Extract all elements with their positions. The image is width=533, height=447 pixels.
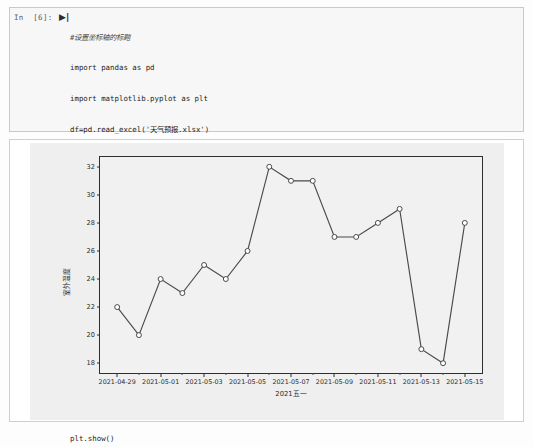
x-axis-tick-mark-minor (356, 373, 357, 375)
data-point-marker (158, 277, 163, 282)
data-point-marker (441, 361, 446, 366)
run-cell-icon[interactable]: ▶| (59, 12, 69, 23)
code-line: #设置坐标轴的标题 (70, 33, 520, 43)
code-line: df=pd.read_excel('天气预报.xlsx') (70, 125, 520, 135)
data-point-marker (202, 263, 207, 268)
cell-output-area: 18202224262830322021-04-292021-05-012021… (9, 139, 524, 422)
data-point-marker (115, 305, 120, 310)
y-axis-tick-mark (97, 335, 101, 336)
x-axis-tick-mark (334, 373, 335, 377)
data-point-marker (289, 178, 294, 183)
x-axis-tick-label: 2021-04-29 (99, 378, 136, 386)
data-point-marker (245, 248, 250, 253)
x-axis-tick-mark (377, 373, 378, 377)
plot-axes: 18202224262830322021-04-292021-05-012021… (99, 156, 483, 374)
data-point-marker (354, 234, 359, 239)
data-point-marker (136, 333, 141, 338)
x-axis-tick-mark (117, 373, 118, 377)
x-axis-tick-label: 2021-05-05 (229, 378, 266, 386)
code-line: import matplotlib.pyplot as plt (70, 94, 520, 104)
x-axis-tick-label: 2021-05-15 (446, 378, 483, 386)
cell-prompt-label: In [6]: (14, 13, 60, 22)
y-axis-tick-mark (97, 194, 101, 195)
x-axis-tick-mark (247, 373, 248, 377)
x-axis-tick-mark (464, 373, 465, 377)
data-point-marker (397, 206, 402, 211)
x-axis-tick-label: 2021-05-13 (403, 378, 440, 386)
x-axis-label: 2021五一 (275, 388, 306, 398)
data-point-marker (180, 291, 185, 296)
notebook-code-cell[interactable]: In [6]: ▶| #设置坐标轴的标题 import pandas as pd… (9, 7, 524, 132)
y-axis-tick-mark (97, 166, 101, 167)
x-axis-tick-label: 2021-05-03 (186, 378, 223, 386)
series-line (117, 167, 465, 363)
data-point-marker (375, 220, 380, 225)
y-axis-label: 室外温度 (61, 268, 71, 296)
y-axis-tick-mark (97, 222, 101, 223)
x-axis-tick-label: 2021-05-01 (142, 378, 179, 386)
y-axis-tick-mark (97, 307, 101, 308)
data-point-marker (419, 347, 424, 352)
line-series (100, 157, 482, 373)
x-axis-tick-mark-minor (399, 373, 400, 375)
x-axis-tick-label: 2021-05-11 (359, 378, 396, 386)
x-axis-tick-label: 2021-05-09 (316, 378, 353, 386)
x-axis-tick-mark (291, 373, 292, 377)
x-axis-tick-mark-minor (182, 373, 183, 375)
matplotlib-figure: 18202224262830322021-04-292021-05-012021… (30, 143, 504, 420)
x-axis-tick-mark-minor (269, 373, 270, 375)
y-axis-tick-mark (97, 363, 101, 364)
data-point-marker (310, 178, 315, 183)
data-point-marker (462, 220, 467, 225)
code-line: import pandas as pd (70, 63, 520, 73)
data-point-marker (267, 164, 272, 169)
x-axis-tick-mark (160, 373, 161, 377)
y-axis-tick-mark (97, 279, 101, 280)
x-axis-tick-mark-minor (225, 373, 226, 375)
y-axis-tick-mark (97, 250, 101, 251)
x-axis-tick-mark (421, 373, 422, 377)
code-line: plt.show() (70, 434, 520, 444)
x-axis-tick-label: 2021-05-07 (272, 378, 309, 386)
data-point-marker (332, 234, 337, 239)
x-axis-tick-mark-minor (312, 373, 313, 375)
data-point-marker (223, 277, 228, 282)
x-axis-tick-mark-minor (443, 373, 444, 375)
x-axis-tick-mark-minor (138, 373, 139, 375)
x-axis-tick-mark (204, 373, 205, 377)
